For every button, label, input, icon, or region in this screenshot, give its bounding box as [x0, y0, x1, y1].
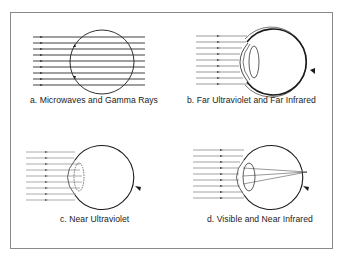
panel-d-diagram [193, 146, 309, 210]
panel-d-label: d. Visible and Near Infrared [207, 214, 313, 224]
panel-c-diagram [26, 146, 141, 210]
optic-nerve [303, 186, 309, 191]
lens [249, 46, 259, 78]
panel-b-label: b. Far Ultraviolet and Far Infrared [187, 95, 316, 105]
eyeball-outline [244, 146, 303, 210]
panel-a-diagram [33, 30, 145, 94]
optic-nerve [135, 186, 141, 191]
lens [243, 163, 255, 191]
lens [74, 163, 84, 191]
focused-rays [243, 168, 307, 184]
eyeball-outline [70, 30, 134, 94]
optic-nerve [310, 68, 315, 74]
panel-b-diagram [196, 27, 315, 97]
panel-a-label: a. Microwaves and Gamma Rays [30, 95, 158, 105]
panel-c-label: c. Near Ultraviolet [60, 214, 129, 224]
